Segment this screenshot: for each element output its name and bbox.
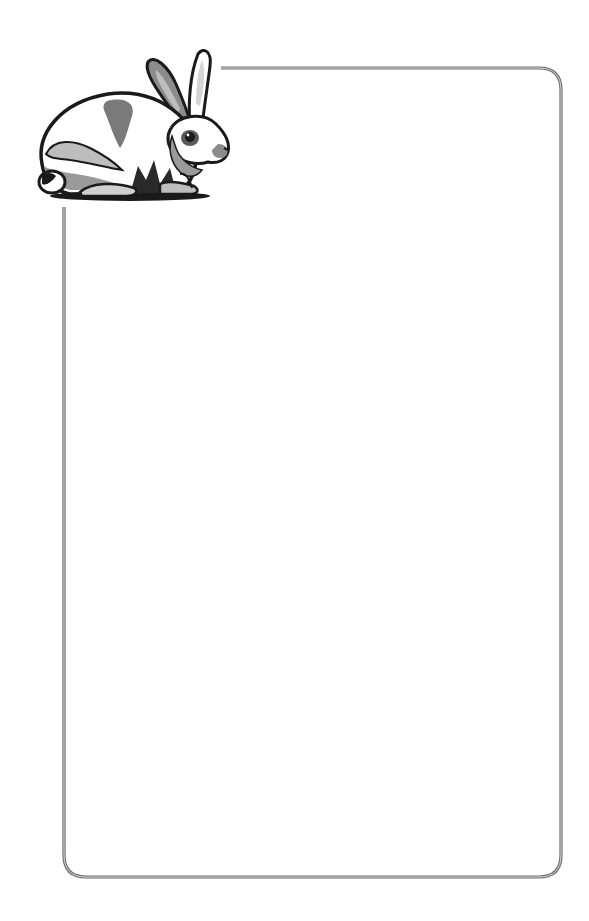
blank-writing-area <box>72 215 552 865</box>
rabbit-illustration-icon <box>30 44 235 209</box>
stationery-page <box>0 0 589 921</box>
